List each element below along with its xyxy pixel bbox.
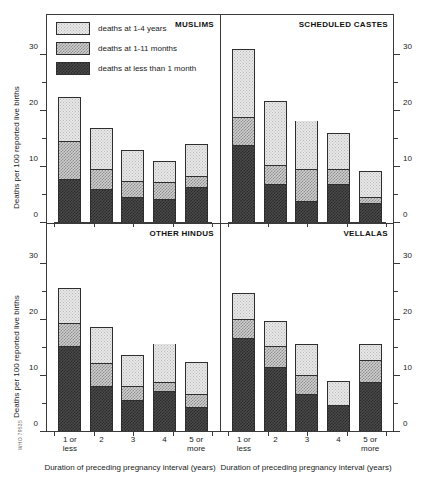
segment-deaths-1-4-years (59, 98, 80, 142)
panel-title-other-hindus: OTHER HINDUS (150, 229, 215, 238)
segment-deaths-less-than-1-month (91, 387, 112, 432)
x-label-1: 1 or less (55, 435, 85, 457)
segment-deaths-1-11-months (233, 118, 254, 146)
y-tick-20 (394, 319, 400, 320)
bar-row[interactable] (121, 150, 144, 223)
bar-group-muslims (54, 55, 212, 223)
panel-scheduled-castes: SCHEDULED CASTES (220, 14, 394, 223)
y-tick-label-0: 0 (34, 420, 38, 428)
y-tick-10 (40, 166, 46, 167)
segment-deaths-1-11-months (186, 395, 207, 408)
who-reference-code: WHO 79535 (17, 420, 23, 450)
plot-area-other-hindus (54, 264, 212, 432)
segment-deaths-less-than-1-month (328, 406, 349, 432)
segment-deaths-less-than-1-month (59, 347, 80, 432)
segment-deaths-less-than-1-month (296, 202, 317, 223)
segment-deaths-1-4-years (233, 294, 254, 320)
segment-deaths-1-11-months (360, 361, 381, 383)
bar-row[interactable] (264, 321, 287, 432)
segment-deaths-1-4-years (360, 345, 381, 362)
bar-row[interactable] (264, 101, 287, 223)
legend-swatch-1-11-months (56, 42, 90, 55)
segment-deaths-1-11-months (265, 347, 286, 368)
segment-deaths-1-11-months (265, 166, 286, 185)
y-tick-minor-5 (42, 403, 46, 404)
legend-item-deaths-1-4-years: deaths at 1-4 years (56, 20, 196, 37)
y-tick-10 (394, 166, 400, 167)
segment-deaths-1-4-years (296, 345, 317, 376)
bar-row[interactable] (121, 355, 144, 432)
x-label-3: 3 (118, 435, 148, 457)
legend-label: deaths at 1-11 months (98, 44, 177, 53)
y-tick-label-0: 0 (34, 211, 38, 219)
segment-deaths-1-4-years (154, 344, 175, 383)
bar-row[interactable] (58, 288, 81, 433)
bar-row[interactable] (153, 344, 176, 433)
segment-deaths-1-4-years (122, 356, 143, 387)
segment-deaths-less-than-1-month (59, 180, 80, 223)
bar-row[interactable] (185, 144, 208, 224)
bar-row[interactable] (327, 381, 350, 433)
bar-row[interactable] (232, 49, 255, 223)
y-tick-minor-25 (394, 82, 398, 83)
y-tick-minor-25 (42, 291, 46, 292)
x-tick-labels-right: 1 or less 2 3 4 5 or more (228, 435, 386, 457)
plot-area-muslims (54, 55, 212, 223)
y-tick-minor-15 (42, 347, 46, 348)
y-tick-20 (40, 319, 46, 320)
y-tick-30 (394, 54, 400, 55)
segment-deaths-1-4-years (296, 121, 317, 170)
bar-row[interactable] (232, 293, 255, 432)
x-axis-title-right: Duration of preceding pregnancy interval… (206, 463, 406, 472)
y-tick-0 (40, 431, 46, 432)
plot-area-scheduled-castes (228, 55, 386, 223)
bar-row[interactable] (295, 121, 318, 224)
y-tick-label-30: 30 (29, 43, 38, 51)
y-tick-label-30: 30 (29, 252, 38, 260)
segment-deaths-1-11-months (154, 183, 175, 200)
segment-deaths-1-4-years (328, 382, 349, 407)
bar-row[interactable] (359, 171, 382, 223)
y-tick-label-0: 0 (403, 211, 407, 219)
y-tick-30 (40, 263, 46, 264)
y-tick-minor-25 (42, 82, 46, 83)
y-tick-10 (40, 375, 46, 376)
bar-row[interactable] (153, 161, 176, 223)
y-tick-label-20: 20 (403, 99, 412, 107)
panel-vellalas: VELLALAS (220, 223, 394, 432)
y-tick-30 (394, 263, 400, 264)
bar-row[interactable] (295, 344, 318, 433)
segment-deaths-1-11-months (91, 364, 112, 387)
x-label-5: 5 or more (355, 435, 385, 457)
y-tick-label-20: 20 (29, 99, 38, 107)
x-label-4: 4 (150, 435, 180, 457)
segment-deaths-1-11-months (59, 142, 80, 179)
bar-row[interactable] (90, 327, 113, 432)
segment-deaths-1-11-months (328, 170, 349, 185)
y-tick-label-20: 20 (29, 308, 38, 316)
bar-group-other-hindus (54, 264, 212, 432)
segment-deaths-1-11-months (296, 170, 317, 202)
y-tick-label-10: 10 (29, 155, 38, 163)
plot-area-vellalas (228, 264, 386, 432)
bar-row[interactable] (185, 362, 208, 432)
legend-label: deaths at less than 1 month (98, 64, 196, 73)
bar-group-scheduled-castes (228, 55, 386, 223)
panel-title-scheduled-castes: SCHEDULED CASTES (299, 20, 388, 29)
y-axis-scheduled-castes: 0 10 20 30 (394, 55, 424, 223)
segment-deaths-less-than-1-month (154, 200, 175, 223)
bar-row[interactable] (90, 128, 113, 223)
x-label-1: 1 or less (229, 435, 259, 457)
legend: deaths at 1-4 years deaths at 1-11 month… (56, 20, 196, 80)
x-axis-title-left: Duration of preceding pregnancy interval… (30, 463, 230, 472)
bar-row[interactable] (58, 97, 81, 223)
y-axis-title-bottom: Deaths per 100 reported live births (12, 295, 21, 418)
y-tick-minor-15 (394, 347, 398, 348)
x-label-2: 2 (260, 435, 290, 457)
y-tick-minor-15 (394, 138, 398, 139)
segment-deaths-1-4-years (233, 50, 254, 118)
bar-row[interactable] (327, 133, 350, 223)
figure-root: MUSLIMS (0, 0, 427, 477)
bar-row[interactable] (359, 344, 382, 433)
segment-deaths-less-than-1-month (265, 185, 286, 223)
